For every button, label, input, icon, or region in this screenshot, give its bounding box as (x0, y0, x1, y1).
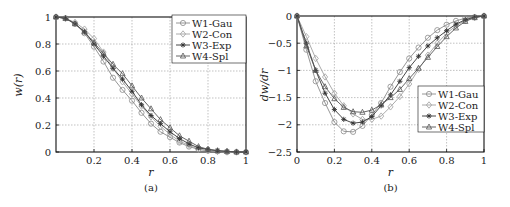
legend-label: W3-Exp (438, 111, 477, 122)
y-tick-label: 0.4 (35, 93, 51, 104)
legend-label: W2-Con (438, 100, 479, 111)
x-tick-label: 0.2 (326, 155, 342, 166)
y-tick-label: −2 (277, 119, 292, 130)
x-tick-label: 0.6 (401, 155, 417, 166)
y-tick-label: 0.8 (35, 39, 51, 50)
chart-panel-b: 00.20.40.60.81−2.5−2−1.5−1−0.50r(b)dw/dr… (258, 11, 487, 194)
legend-label: W4-Spl (438, 122, 474, 133)
chart-panel-a: 0.20.40.60.8100.20.40.60.81r(a)w(r)W1-Ga… (12, 12, 249, 194)
x-tick-label: 0 (294, 155, 300, 166)
x-axis-label: r (388, 166, 394, 179)
x-tick-label: 0.8 (200, 155, 216, 166)
y-tick-label: 1 (45, 12, 51, 23)
figure: 0.20.40.60.8100.20.40.60.81r(a)w(r)W1-Ga… (0, 0, 510, 207)
y-tick-label: 0.6 (35, 66, 51, 77)
x-tick-label: 0.2 (86, 155, 102, 166)
x-tick-label: 1 (243, 155, 249, 166)
x-tick-label: 0.4 (364, 155, 380, 166)
legend-label: W2-Con (192, 29, 233, 40)
x-tick-label: 0.8 (439, 155, 455, 166)
star-marker (322, 91, 327, 96)
legend-label: W3-Exp (192, 40, 231, 51)
y-tick-label: −2.5 (268, 147, 292, 158)
x-tick-label: 0.6 (162, 155, 178, 166)
legend-label: W4-Spl (192, 51, 228, 62)
x-axis-label: r (148, 166, 154, 179)
x-tick-label: 0.4 (124, 155, 140, 166)
panel-caption: (a) (144, 182, 158, 193)
legend-label: W1-Gau (438, 89, 479, 100)
y-axis-label: dw/dr (258, 68, 271, 101)
y-tick-label: −1.5 (268, 92, 292, 103)
panel-caption: (b) (383, 182, 397, 193)
y-tick-label: −1 (277, 65, 292, 76)
y-axis-label: w(r) (12, 73, 25, 96)
y-tick-label: −0.5 (268, 38, 292, 49)
legend: W1-GauW2-ConW3-ExpW4-Spl (172, 15, 246, 63)
legend-label: W1-Gau (192, 18, 233, 29)
y-tick-label: 0.2 (35, 120, 51, 131)
legend: W1-GauW2-ConW3-ExpW4-Spl (418, 86, 484, 133)
y-tick-label: 0 (45, 147, 51, 158)
y-tick-label: 0 (286, 11, 292, 22)
x-tick-label: 1 (481, 155, 487, 166)
